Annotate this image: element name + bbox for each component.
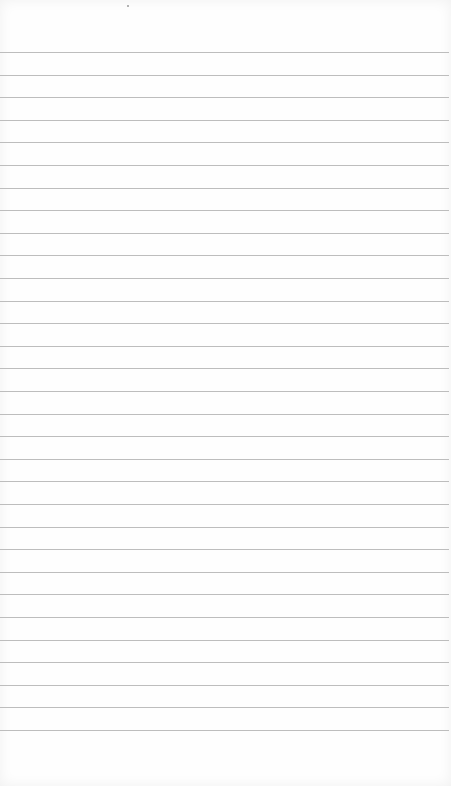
ruled-line — [0, 278, 449, 279]
ruled-line — [0, 97, 449, 98]
ruled-line — [0, 301, 449, 302]
ruled-line — [0, 255, 449, 256]
ruled-line — [0, 481, 449, 482]
ruled-line — [0, 685, 449, 686]
ruled-line — [0, 368, 449, 369]
ruled-line — [0, 165, 449, 166]
ruled-line — [0, 707, 449, 708]
ruled-line — [0, 527, 449, 528]
ruled-line — [0, 640, 449, 641]
ruled-line — [0, 391, 449, 392]
paper-speck — [127, 5, 129, 7]
ruled-line — [0, 436, 449, 437]
ruled-line — [0, 594, 449, 595]
ruled-line — [0, 188, 449, 189]
ruled-line — [0, 459, 449, 460]
ruled-line — [0, 233, 449, 234]
ruled-line — [0, 75, 449, 76]
ruled-line — [0, 120, 449, 121]
ruled-line — [0, 52, 449, 53]
ruled-line — [0, 414, 449, 415]
ruled-line — [0, 572, 449, 573]
ruled-line — [0, 504, 449, 505]
ruled-line — [0, 730, 449, 731]
ruled-line — [0, 142, 449, 143]
ruled-line — [0, 323, 449, 324]
ruled-line — [0, 210, 449, 211]
ruled-line — [0, 662, 449, 663]
lined-paper — [0, 0, 451, 786]
ruled-line — [0, 617, 449, 618]
ruled-line — [0, 549, 449, 550]
ruled-line — [0, 346, 449, 347]
